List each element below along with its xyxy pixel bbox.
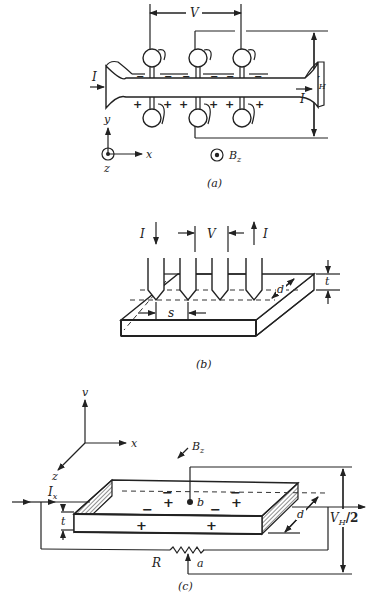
hall-effect-figure: V VH	[0, 0, 382, 601]
svg-text:z: z	[103, 162, 110, 175]
depth-label: d	[297, 508, 304, 521]
caption-b: (b)	[196, 358, 212, 371]
svg-text:−: −	[210, 71, 218, 82]
current-out-label: I	[299, 92, 305, 106]
voltage-label: V	[190, 6, 200, 20]
svg-text:+: +	[231, 495, 242, 510]
svg-text:+: +	[255, 98, 264, 111]
svg-text:x: x	[131, 437, 138, 450]
axes-icon: v x z	[51, 386, 138, 483]
svg-text:+: +	[133, 98, 142, 111]
svg-text:v: v	[82, 386, 89, 399]
point-b-label: b	[197, 496, 204, 509]
svg-text:Bz: Bz	[228, 149, 242, 164]
panel-a: V VH	[90, 4, 328, 190]
panel-b: I I V s	[121, 222, 340, 371]
svg-text:−: −	[136, 71, 144, 82]
svg-text:−: −	[142, 502, 153, 517]
svg-text:−: −	[226, 71, 234, 82]
current-out-label: I	[262, 227, 268, 241]
svg-text:+: +	[179, 98, 188, 111]
svg-text:z: z	[51, 470, 58, 483]
svg-text:+: +	[206, 518, 217, 533]
current-in-label: I	[139, 227, 145, 241]
svg-text:−: −	[182, 71, 190, 82]
top-contact-pads	[143, 49, 255, 78]
svg-text:+: +	[136, 518, 147, 533]
voltage-label: V	[207, 227, 217, 241]
thickness-label: t	[61, 515, 66, 528]
svg-text:+: +	[209, 98, 218, 111]
point-a-label: a	[197, 557, 204, 570]
caption-a: (a)	[207, 177, 222, 190]
svg-text:+: +	[225, 98, 234, 111]
svg-text:+: +	[163, 495, 174, 510]
svg-text:y: y	[103, 113, 111, 126]
bottom-contact-pads	[143, 97, 254, 127]
magnetic-field-icon: Bz	[211, 149, 242, 164]
svg-text:−: −	[164, 71, 172, 82]
resistor-label: R	[151, 556, 161, 570]
svg-text:x: x	[146, 148, 153, 161]
svg-text:−: −	[210, 502, 221, 517]
thickness-label: t	[325, 275, 330, 288]
spacing-label: s	[168, 306, 174, 320]
depth-label: d	[277, 283, 284, 296]
panel-c: v x z Bz − − − − + + + + b	[12, 386, 382, 593]
current-in-label: I	[91, 70, 97, 84]
svg-text:+: +	[163, 98, 172, 111]
svg-text:−: −	[254, 71, 262, 82]
caption-c: (c)	[178, 580, 193, 593]
magnetic-field-label: Bz	[191, 440, 205, 455]
current-label: Ix	[47, 485, 58, 501]
